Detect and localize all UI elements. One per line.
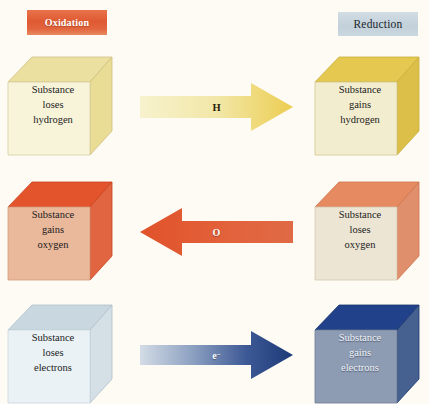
row-hydrogen: Substance loses hydrogen H	[0, 55, 429, 163]
row-electrons: Substance loses electrons e−	[0, 303, 429, 403]
arrow-right-icon	[138, 79, 295, 135]
reduction-header-label: Reduction	[353, 18, 402, 30]
oxidation-header-label: Oxidation	[45, 17, 90, 28]
arrow-oxygen-transfer: O	[138, 204, 295, 260]
cube-shape	[313, 303, 421, 404]
cube-gains-electrons: Substance gains electrons	[313, 303, 421, 404]
arrow-electron-transfer: e−	[138, 327, 295, 383]
cube-shape	[313, 180, 421, 283]
cube-shape	[6, 55, 114, 158]
arrow-right-icon	[138, 327, 295, 383]
cube-shape	[6, 180, 114, 283]
cube-gains-oxygen: Substance gains oxygen	[6, 180, 114, 283]
arrow-left-icon	[138, 204, 295, 260]
oxidation-header-badge: Oxidation	[27, 10, 107, 35]
cube-shape	[313, 55, 421, 158]
row-oxygen: Substance gains oxygen O	[0, 180, 429, 288]
cube-loses-electrons: Substance loses electrons	[6, 303, 114, 404]
cube-shape	[6, 303, 114, 404]
cube-loses-hydrogen: Substance loses hydrogen	[6, 55, 114, 158]
cube-loses-oxygen: Substance loses oxygen	[313, 180, 421, 283]
arrow-hydrogen-transfer: H	[138, 79, 295, 135]
redox-diagram: Oxidation Reduction Substance loses hydr…	[0, 0, 429, 404]
reduction-header-badge: Reduction	[338, 12, 418, 36]
cube-gains-hydrogen: Substance gains hydrogen	[313, 55, 421, 158]
